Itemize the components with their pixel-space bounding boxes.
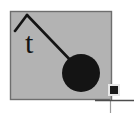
- pendulum-diagram-svg: t: [0, 0, 134, 113]
- pendulum-bob: [62, 54, 100, 92]
- figure-canvas: t: [0, 0, 134, 113]
- label-t: t: [25, 26, 34, 59]
- corner-square-marker: [110, 86, 118, 94]
